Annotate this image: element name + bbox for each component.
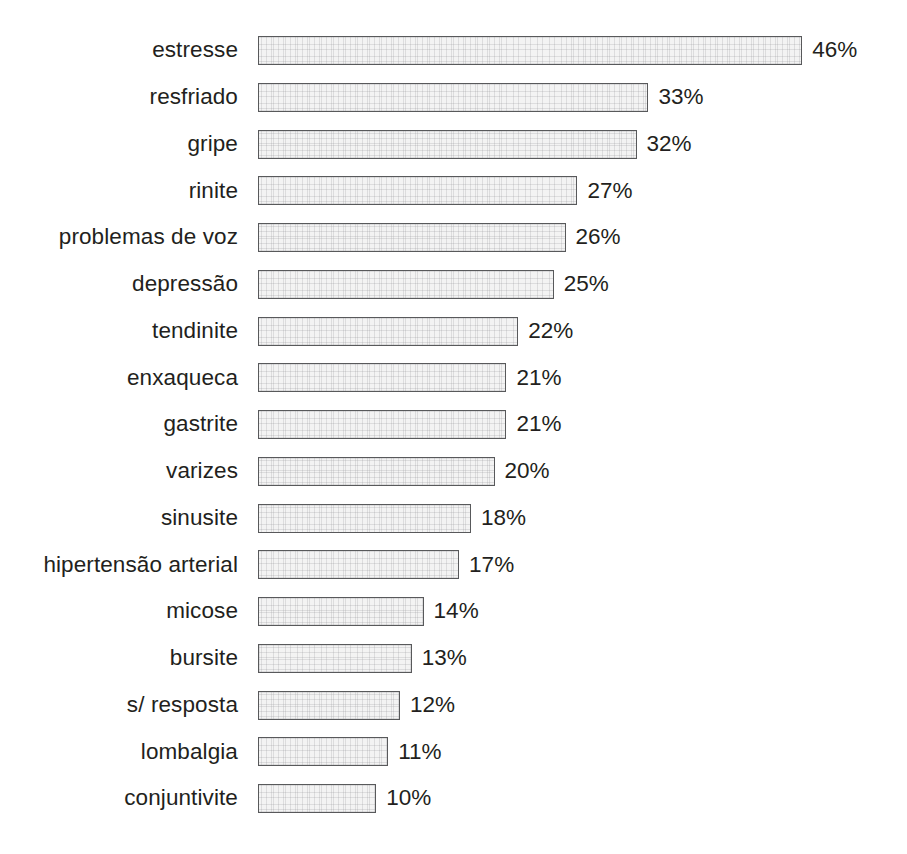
- bar-chart: estresse46%resfriado33%gripe32%rinite27%…: [0, 0, 907, 854]
- bar-with-value: 32%: [258, 130, 692, 159]
- bar-value-label: 14%: [434, 600, 479, 623]
- bar-with-value: 46%: [258, 36, 857, 65]
- bar: [258, 317, 518, 346]
- bar: [258, 784, 376, 813]
- bar-value-label: 11%: [398, 741, 441, 764]
- chart-bar-row: s/ resposta12%: [0, 682, 907, 729]
- bar-value-label: 46%: [812, 39, 857, 62]
- bar-value-label: 21%: [516, 367, 561, 390]
- bar-category-label: varizes: [0, 460, 238, 483]
- bar-value-label: 10%: [386, 787, 431, 810]
- bar-with-value: 11%: [258, 737, 442, 766]
- bar-category-label: s/ resposta: [0, 694, 238, 717]
- bar: [258, 410, 506, 439]
- bar: [258, 737, 388, 766]
- bar-value-label: 25%: [564, 273, 609, 296]
- chart-bar-row: gastrite21%: [0, 401, 907, 448]
- chart-bar-row: conjuntivite10%: [0, 775, 907, 822]
- bar-with-value: 14%: [258, 597, 479, 626]
- bar-value-label: 27%: [587, 180, 632, 203]
- chart-bar-row: hipertensão arterial17%: [0, 541, 907, 588]
- bar: [258, 504, 471, 533]
- bar-category-label: micose: [0, 600, 238, 623]
- bar-with-value: 27%: [258, 176, 632, 205]
- chart-bar-row: tendinite22%: [0, 308, 907, 355]
- bar-with-value: 25%: [258, 270, 609, 299]
- bar-category-label: gripe: [0, 133, 238, 156]
- chart-bar-row: enxaqueca21%: [0, 354, 907, 401]
- bar: [258, 550, 459, 579]
- chart-bar-row: problemas de voz26%: [0, 214, 907, 261]
- bar-value-label: 18%: [481, 507, 526, 530]
- bar-category-label: resfriado: [0, 86, 238, 109]
- bar-category-label: gastrite: [0, 413, 238, 436]
- chart-bar-row: sinusite18%: [0, 495, 907, 542]
- bar-value-label: 21%: [516, 413, 561, 436]
- chart-bar-row: bursite13%: [0, 635, 907, 682]
- bar-value-label: 12%: [410, 694, 455, 717]
- bar-value-label: 33%: [658, 86, 703, 109]
- bar: [258, 270, 554, 299]
- bar-with-value: 33%: [258, 83, 703, 112]
- bar-category-label: estresse: [0, 39, 238, 62]
- bar-with-value: 10%: [258, 784, 431, 813]
- bar-value-label: 26%: [576, 226, 621, 249]
- bar: [258, 597, 424, 626]
- bar-category-label: problemas de voz: [0, 226, 238, 249]
- bar-with-value: 17%: [258, 550, 514, 579]
- bar-with-value: 26%: [258, 223, 621, 252]
- bar-category-label: depressão: [0, 273, 238, 296]
- bar-category-label: lombalgia: [0, 741, 238, 764]
- chart-plot-area: estresse46%resfriado33%gripe32%rinite27%…: [0, 0, 907, 854]
- bar-category-label: conjuntivite: [0, 787, 238, 810]
- bar-value-label: 20%: [505, 460, 550, 483]
- bar-category-label: sinusite: [0, 507, 238, 530]
- bar-with-value: 20%: [258, 457, 550, 486]
- bar-with-value: 12%: [258, 691, 455, 720]
- chart-bar-row: lombalgia11%: [0, 728, 907, 775]
- bar-category-label: tendinite: [0, 320, 238, 343]
- bar: [258, 691, 400, 720]
- bar-category-label: bursite: [0, 647, 238, 670]
- chart-bar-row: gripe32%: [0, 121, 907, 168]
- bar: [258, 644, 412, 673]
- bar: [258, 83, 648, 112]
- bar-with-value: 18%: [258, 504, 526, 533]
- bar-value-label: 22%: [528, 320, 573, 343]
- bar-value-label: 13%: [422, 647, 467, 670]
- bar: [258, 130, 637, 159]
- chart-bar-row: resfriado33%: [0, 74, 907, 121]
- bar-with-value: 21%: [258, 410, 561, 439]
- bar-with-value: 13%: [258, 644, 467, 673]
- chart-bar-row: rinite27%: [0, 167, 907, 214]
- chart-bar-row: depressão25%: [0, 261, 907, 308]
- bar-category-label: enxaqueca: [0, 367, 238, 390]
- bar: [258, 363, 506, 392]
- bar-with-value: 21%: [258, 363, 561, 392]
- chart-bar-row: micose14%: [0, 588, 907, 635]
- chart-bar-row: varizes20%: [0, 448, 907, 495]
- bar: [258, 457, 495, 486]
- bar: [258, 36, 802, 65]
- chart-bar-row: estresse46%: [0, 27, 907, 74]
- bar-category-label: rinite: [0, 180, 238, 203]
- bar-with-value: 22%: [258, 317, 573, 346]
- bar: [258, 176, 577, 205]
- bar-value-label: 17%: [469, 554, 514, 577]
- bar-value-label: 32%: [647, 133, 692, 156]
- bar-category-label: hipertensão arterial: [0, 554, 238, 577]
- bar: [258, 223, 566, 252]
